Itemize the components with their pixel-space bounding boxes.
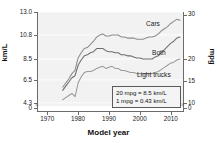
x-axis-title: Model year — [0, 128, 217, 137]
x-axis-tick-label: 1990 — [94, 116, 124, 122]
y-axis-left-tick — [34, 80, 37, 81]
series-label-cars: Cars — [146, 21, 160, 28]
fuel-economy-chart: 13.010.88.56.54.30 35302015100 197019801… — [0, 0, 217, 143]
x-axis-line — [37, 111, 184, 112]
conversion-note-line-2: 1 mpg = 0.43 km/L — [116, 97, 178, 105]
series-label-both: Both — [152, 50, 166, 57]
y-axis-right-title: mpg — [208, 37, 217, 77]
axis-break-left-icon: ≈ — [33, 102, 41, 107]
y-axis-right-tick — [184, 59, 187, 60]
x-axis-tick-label: 1970 — [32, 116, 62, 122]
y-axis-left-title: km/L — [0, 33, 9, 73]
y-axis-right-tick — [184, 81, 187, 82]
conversion-note-box: 20 mpg = 8.5 km/L 1 mpg = 0.43 km/L — [112, 86, 181, 108]
y-axis-left-line — [37, 12, 38, 112]
y-axis-left-tick-label: 6.5 — [2, 77, 32, 83]
series-label-light-trucks: Light trucks — [137, 72, 171, 79]
y-axis-right-tick — [184, 15, 187, 16]
conversion-note-line-1: 20 mpg = 8.5 km/L — [116, 89, 178, 97]
x-axis-tick-label: 2010 — [156, 116, 186, 122]
y-axis-left-tick — [34, 108, 37, 109]
y-axis-right-tick-label: 15 — [188, 78, 217, 84]
x-axis-tick-label: 2000 — [125, 116, 155, 122]
y-axis-right-tick-label: 0 — [188, 105, 217, 111]
y-axis-right-tick-label: 30 — [188, 11, 217, 17]
x-axis-tick-label: 1980 — [63, 116, 93, 122]
y-axis-left-tick-label: 13.0 — [2, 9, 32, 15]
y-axis-right-line — [183, 12, 184, 112]
y-axis-right-tick — [184, 108, 187, 109]
y-axis-left-tick-label: 0 — [2, 105, 32, 111]
y-axis-left-tick — [34, 35, 37, 36]
y-axis-left-tick — [34, 59, 37, 60]
y-axis-left-tick — [34, 12, 37, 13]
